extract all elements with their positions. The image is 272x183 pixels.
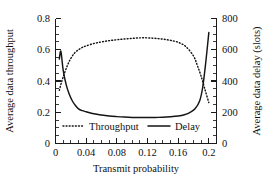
right-tick-label-0: 0: [222, 138, 227, 149]
right-tick-label-2: 400: [222, 76, 238, 87]
legend-label-throughput: Throughput: [89, 121, 139, 132]
left-axis-tick-labels: 0 0.2 0.4 0.6 0.8: [37, 13, 51, 149]
series-line-throughput: [59, 38, 209, 103]
right-axis-title: Average data delay (slots): [251, 26, 263, 136]
x-tick-label-4: 0.16: [169, 147, 187, 158]
x-tick-label-1: 0.04: [77, 147, 96, 158]
series-line-delay: [59, 33, 209, 118]
x-axis-tick-labels: 0 0.04 0.08 0.12 0.16 0.2: [53, 147, 216, 158]
x-tick-label-3: 0.12: [138, 147, 156, 158]
x-tick-label-2: 0.08: [108, 147, 126, 158]
right-tick-label-4: 800: [222, 13, 238, 24]
right-axis-tick-labels: 0 200 400 600 800: [222, 13, 238, 149]
x-axis-ticks: [56, 138, 209, 144]
left-tick-label-3: 0.6: [37, 44, 50, 55]
data-series-group: [59, 33, 209, 118]
left-axis-ticks: [56, 19, 62, 144]
x-tick-label-0: 0: [53, 147, 58, 158]
left-tick-label-0: 0: [45, 138, 50, 149]
x-tick-label-5: 0.2: [202, 147, 215, 158]
legend-label-delay: Delay: [175, 121, 201, 132]
left-tick-label-1: 0.2: [37, 107, 50, 118]
right-tick-label-3: 600: [222, 44, 238, 55]
right-tick-label-1: 200: [222, 107, 238, 118]
x-axis-title: Transmit probability: [93, 163, 180, 174]
right-axis-ticks: [211, 19, 217, 144]
chart-canvas: 0 0.2 0.4 0.6 0.8 0: [0, 0, 272, 183]
left-tick-label-2: 0.4: [37, 76, 51, 87]
left-tick-label-4: 0.8: [37, 13, 50, 24]
chart-legend: Throughput Delay: [63, 121, 201, 132]
left-axis-title: Average data throughput: [4, 29, 15, 133]
chart-figure: 0 0.2 0.4 0.6 0.8 0: [0, 0, 272, 183]
